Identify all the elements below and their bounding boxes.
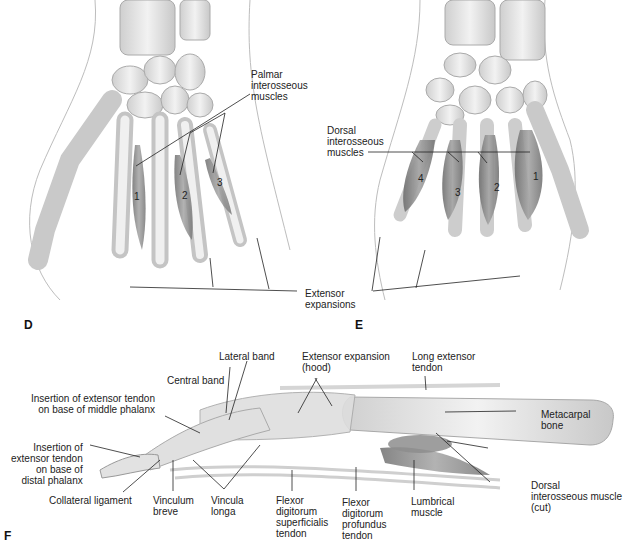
metacarpal-bone-label: Metacarpal bone [541,409,590,431]
panel-d-hand [30,0,290,300]
long-extensor-tendon-label: Long extensor tendon [412,351,475,373]
anatomy-illustration [0,0,633,549]
palmar-muscle-number-1: 1 [134,191,140,202]
panel-letter-f: F [4,529,11,543]
vinculum-breve-label: Vinculum breve [153,495,194,517]
ulna-bone-d [180,0,210,40]
collateral-ligament-label: Collateral ligament [49,495,132,506]
insertion-middle-phalanx-label: Insertion of extensor tendon on base of … [31,393,155,415]
carpal-bones-d [112,54,213,118]
lumbrical-muscle-label: Lumbrical muscle [411,496,454,518]
panel-letter-d: D [24,318,33,332]
dorsal-muscle-number-2: 2 [494,182,500,193]
palmar-muscle-number-2: 2 [182,190,188,201]
insertion-distal-phalanx-label: Insertion of extensor tendon on base of … [11,442,83,486]
panel-f-finger [100,385,613,488]
panel-letter-e: E [355,318,363,332]
dorsal-muscle-number-4: 4 [418,173,424,184]
dorsal-muscle-number-1: 1 [533,171,539,182]
distal-phalanx [100,454,160,478]
dorsal-interosseous-cut-shape [388,435,452,453]
panel-e-hand [368,0,580,300]
ulna-bone-e [500,0,545,60]
thumb-d [38,100,112,260]
lateral-band-label: Lateral band [219,351,275,362]
palmar-muscle-number-3: 3 [217,177,223,188]
extensor-expansion-hood-label: Extensor expansion (hood) [302,351,390,373]
extensor-expansions-label: Extensor expansions [305,288,356,310]
fdp-tendon-label: Flexor digitorum profundus tendon [342,497,386,541]
vincula-longa-label: Vincula longa [211,495,244,517]
extensor-expansions-leaders [130,237,520,291]
fds-tendon-label: Flexor digitorum superficialis tendon [276,495,328,539]
radius-bone-d [120,0,175,55]
dorsal-interosseous-label: Dorsal interosseous muscles [327,125,384,158]
central-band-label: Central band [167,375,224,386]
palmar-interosseous-label: Palmar interosseous muscles [251,69,308,102]
dorsal-muscle-number-3: 3 [455,187,461,198]
dorsal-interosseous-cut-label: Dorsal interosseous muscle (cut) [531,480,622,513]
radius-bone-e [445,0,495,45]
